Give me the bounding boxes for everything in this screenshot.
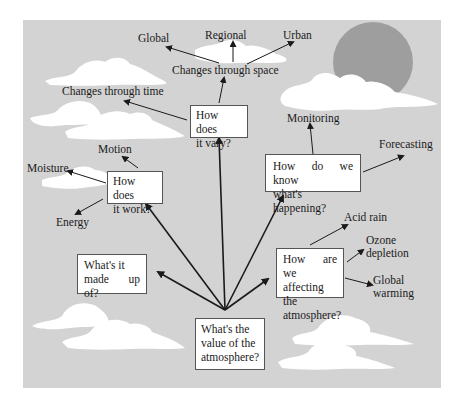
label-urban: Urban <box>283 29 312 42</box>
question-vary-line-1: How does <box>196 108 242 136</box>
question-work-line-2: it work? <box>113 202 157 216</box>
label-warming-line-2: warming <box>373 287 414 300</box>
question-made-up-of-line-1: What's it <box>84 258 140 272</box>
label-global: Global <box>138 32 169 45</box>
question-box-how-does-it-work: How does it work? <box>107 171 163 204</box>
label-regional: Regional <box>205 29 247 42</box>
question-affect-line-2: affecting the <box>283 280 337 308</box>
label-energy: Energy <box>56 216 89 229</box>
question-box-how-does-it-vary: How does it vary? <box>190 105 248 138</box>
label-changes-through-space: Changes through space <box>172 64 279 77</box>
question-box-how-are-we-affecting: How are we affecting the atmosphere? <box>276 248 344 298</box>
central-question-line-2: value of the <box>201 336 259 350</box>
label-warming-line-1: Global <box>373 274 404 287</box>
label-monitoring: Monitoring <box>287 112 339 125</box>
main-arrows <box>146 138 283 310</box>
label-acid-rain: Acid rain <box>344 211 387 224</box>
question-box-how-do-we-know: How do we know what's happening? <box>265 154 361 192</box>
question-vary-line-2: it vary? <box>196 136 242 150</box>
central-question-line-1: What's the <box>201 322 259 336</box>
label-moisture: Moisture <box>27 162 69 175</box>
question-made-up-of-line-2: made up of? <box>84 272 140 300</box>
label-changes-through-time: Changes through time <box>62 85 164 98</box>
question-affect-line-1: How are we <box>283 252 337 280</box>
label-ozone-line-2: depletion <box>366 247 409 260</box>
central-question-line-3: atmosphere? <box>201 350 259 364</box>
question-work-line-1: How does <box>113 174 157 202</box>
question-know-line-2: what's happening? <box>273 187 353 215</box>
question-box-made-up-of: What's it made up of? <box>77 254 147 294</box>
label-motion: Motion <box>98 143 132 156</box>
label-ozone-line-1: Ozone <box>366 234 396 247</box>
central-question-box: What's the value of the atmosphere? <box>195 318 265 370</box>
label-forecasting: Forecasting <box>379 138 433 151</box>
question-know-line-1: How do we know <box>273 159 353 187</box>
question-affect-line-3: atmosphere? <box>283 308 337 322</box>
